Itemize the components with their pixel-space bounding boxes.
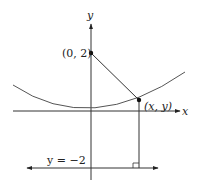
curve-point-label: (x, y): [144, 100, 172, 113]
curve-point: [137, 98, 141, 102]
directrix-label: y = −2: [46, 154, 86, 167]
focus-label: (0, 2): [62, 47, 92, 60]
y-axis-label: y: [86, 9, 94, 22]
x-axis-label: x: [182, 105, 189, 118]
right-angle-marker: [133, 163, 139, 168]
focus-to-point-segment: [91, 53, 139, 100]
parabola-diagram: x y y = −2 (0, 2) (x, y): [0, 0, 199, 191]
